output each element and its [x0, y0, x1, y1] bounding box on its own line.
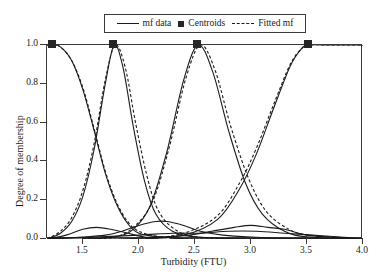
series-3	[47, 45, 363, 239]
centroid-marker	[193, 40, 201, 48]
x-tick-mark	[362, 238, 363, 244]
series-1	[47, 45, 363, 239]
y-tick-label: 0.2	[0, 194, 38, 204]
y-tick-label: 0.6	[0, 117, 38, 127]
y-tick-label: 0.8	[0, 78, 38, 88]
x-tick-mark	[194, 238, 195, 244]
dashed-line-icon	[232, 23, 254, 24]
legend-label-mf-data: mf data	[143, 19, 172, 29]
x-tick-mark	[138, 238, 139, 244]
filled-square-icon	[178, 21, 184, 27]
solid-line-icon	[117, 23, 139, 24]
legend-item-centroids: Centroids	[178, 19, 225, 29]
x-tick-label: 3.0	[230, 246, 270, 256]
x-axis-title: Turbidity (FTU)	[0, 256, 387, 267]
x-tick-mark	[250, 238, 251, 244]
legend-label-centroids: Centroids	[188, 19, 225, 29]
y-tick-label: 0.0	[0, 233, 38, 243]
x-tick-label: 4.0	[342, 246, 382, 256]
series-2	[47, 45, 363, 239]
x-tick-label: 1.5	[62, 246, 102, 256]
x-tick-label: 2.0	[118, 246, 158, 256]
centroid-marker	[48, 40, 56, 48]
series-canvas	[47, 45, 363, 239]
y-tick-label: 1.0	[0, 39, 38, 49]
legend-label-fitted-mf: Fitted mf	[258, 19, 293, 29]
centroid-marker	[109, 40, 117, 48]
y-tick-label: 0.4	[0, 155, 38, 165]
x-tick-mark	[82, 238, 83, 244]
legend-item-fitted-mf: Fitted mf	[232, 19, 293, 29]
figure: mf data Centroids Fitted mf Degree of me…	[0, 0, 387, 274]
y-tick-mark	[40, 238, 46, 239]
series-0	[47, 45, 363, 239]
legend-item-mf-data: mf data	[117, 19, 172, 29]
centroid-marker	[304, 40, 312, 48]
x-tick-label: 2.5	[174, 246, 214, 256]
plot-area	[46, 44, 362, 238]
chart-legend: mf data Centroids Fitted mf	[104, 14, 306, 33]
x-tick-label: 3.5	[286, 246, 326, 256]
x-tick-mark	[306, 238, 307, 244]
